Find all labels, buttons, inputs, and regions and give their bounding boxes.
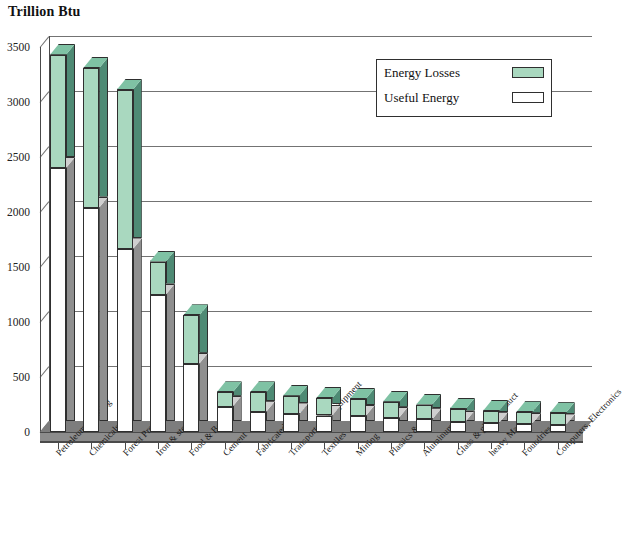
bar-segment-useful-front <box>350 416 366 432</box>
bar-segment-useful-front <box>383 418 399 432</box>
bar-group <box>316 0 341 545</box>
bar-group <box>350 0 375 545</box>
bar-segment-losses-front <box>350 399 366 416</box>
y-axis-tick-1000: 1000 <box>0 316 30 328</box>
bar-segment-losses-front <box>283 396 299 415</box>
y-axis-tick-0: 0 <box>0 426 30 438</box>
y-axis-tick-500: 500 <box>0 371 30 383</box>
bar-segment-useful-front <box>183 364 199 432</box>
bar-group <box>50 0 75 545</box>
bar-group <box>117 0 142 545</box>
legend-swatch-useful-energy <box>512 92 544 103</box>
bar-segment-useful-front <box>83 208 99 432</box>
bar-segment-losses-side <box>133 79 142 239</box>
bar-segment-useful-front <box>483 423 499 432</box>
y-axis-line <box>40 47 41 432</box>
y-axis-tick-2500: 2500 <box>0 151 30 163</box>
y-axis-tick-3000: 3000 <box>0 96 30 108</box>
bar-group <box>150 0 175 545</box>
chart-legend: Energy Losses Useful Energy <box>376 59 552 117</box>
y-axis-tick-2000: 2000 <box>0 206 30 218</box>
bar-group <box>83 0 108 545</box>
bar-segment-losses-front <box>183 315 199 363</box>
x-axis-line <box>40 441 583 442</box>
bar-group <box>283 0 308 545</box>
bar-segment-useful-side <box>99 197 108 421</box>
bar-group <box>250 0 275 545</box>
bar-segment-losses-side <box>99 57 108 197</box>
bar-segment-losses-front <box>450 409 466 422</box>
bar-segment-useful-front <box>117 249 133 432</box>
bar-segment-losses-front <box>83 68 99 208</box>
bar-segment-useful-front <box>416 419 432 432</box>
bar-segment-losses-front <box>217 392 233 406</box>
bar-segment-losses-front <box>316 398 332 416</box>
bar-segment-useful-front <box>316 416 332 433</box>
bar-segment-losses-front <box>416 405 432 420</box>
legend-label-useful-energy: Useful Energy <box>384 90 459 106</box>
bar-segment-losses-side <box>66 44 75 157</box>
bar-segment-losses-front <box>250 392 266 412</box>
legend-swatch-energy-losses <box>512 67 544 78</box>
y-axis-tick-1500: 1500 <box>0 261 30 273</box>
bar-segment-useful-front <box>283 414 299 432</box>
bar-group <box>183 0 208 545</box>
bar-segment-useful-front <box>50 168 66 432</box>
bar-group <box>550 0 575 545</box>
bar-segment-useful-front <box>150 295 166 433</box>
bar-segment-losses-front <box>516 412 532 424</box>
bar-segment-useful-side <box>199 353 208 421</box>
bar-segment-losses-front <box>550 413 566 425</box>
bar-segment-losses-front <box>150 262 166 295</box>
bar-segment-losses-front <box>383 402 399 418</box>
legend-item-useful-energy: Useful Energy <box>377 85 551 110</box>
y-axis-tick-3500: 3500 <box>0 41 30 53</box>
bar-segment-useful-front <box>550 425 566 432</box>
bar-segment-useful-front <box>516 424 532 432</box>
bar-segment-losses-front <box>117 90 133 250</box>
bar-segment-losses-front <box>483 411 499 423</box>
legend-label-energy-losses: Energy Losses <box>384 65 460 81</box>
bar-segment-useful-front <box>450 422 466 432</box>
bar-segment-losses-front <box>50 55 66 168</box>
bar-segment-useful-side <box>133 238 142 421</box>
bar-group <box>217 0 242 545</box>
bar-segment-useful-side <box>66 157 75 421</box>
bar-segment-useful-side <box>166 284 175 422</box>
bar-segment-useful-front <box>217 407 233 432</box>
bar-segment-useful-front <box>250 412 266 432</box>
legend-item-energy-losses: Energy Losses <box>377 60 551 85</box>
